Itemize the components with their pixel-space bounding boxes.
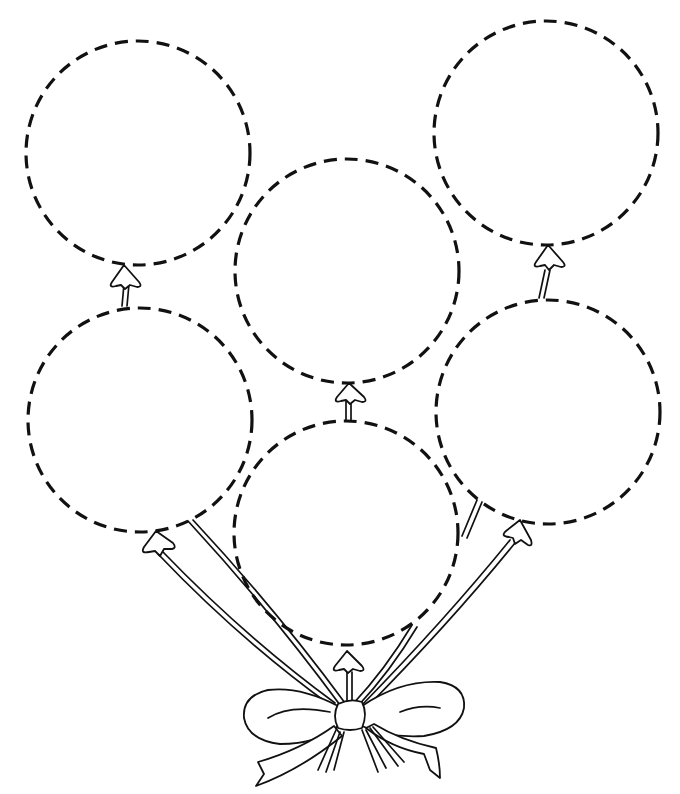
ribbon-bow — [244, 682, 464, 786]
knot-top-right-icon — [535, 245, 565, 270]
balloon-bottom-center[interactable] — [234, 421, 458, 645]
balloon-middle-left[interactable] — [28, 308, 252, 532]
balloons — [26, 21, 660, 645]
knot-middle-center-icon — [336, 383, 366, 404]
balloon-knots — [111, 245, 565, 673]
knot-top-left-icon — [111, 265, 141, 289]
string-middle-right-secondary — [462, 500, 482, 538]
balloon-middle-right[interactable] — [436, 300, 660, 524]
bow-center-knot — [335, 700, 365, 730]
string-middle-left — [158, 552, 335, 705]
balloon-top-right[interactable] — [434, 21, 658, 245]
balloon-strings — [122, 270, 550, 707]
balloon-coloring-page — [0, 0, 680, 794]
knot-bottom-center-icon — [334, 651, 364, 673]
knot-middle-left-icon — [143, 531, 175, 556]
string-top-right — [539, 270, 550, 298]
balloon-middle-center[interactable] — [235, 159, 459, 383]
balloon-top-left[interactable] — [26, 41, 250, 265]
string-bottom-center — [347, 672, 352, 702]
